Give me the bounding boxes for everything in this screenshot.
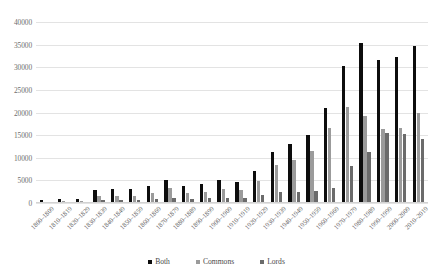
bar-group <box>37 22 55 203</box>
y-axis-tick-label: 10000 <box>14 153 32 162</box>
bar-commons <box>292 160 295 203</box>
bar-group <box>250 22 268 203</box>
bar-both <box>111 189 114 203</box>
bar-both <box>147 186 150 203</box>
bar-both <box>288 144 291 203</box>
bar-group <box>143 22 161 203</box>
bar-both <box>324 108 327 203</box>
bar-group <box>72 22 90 203</box>
bar-lords <box>332 188 335 203</box>
bar-both <box>200 184 203 203</box>
bar-both <box>395 57 398 203</box>
bar-group <box>214 22 232 203</box>
bar-group <box>285 22 303 203</box>
bar-lords <box>385 133 388 203</box>
bar-both <box>359 43 362 203</box>
bar-commons <box>346 107 349 203</box>
bar-both <box>164 180 167 203</box>
bar-group <box>179 22 197 203</box>
bar-commons <box>381 129 384 203</box>
chart-legend: BothCommonsLords <box>0 257 433 266</box>
bar-commons <box>363 116 366 203</box>
axis-baseline <box>36 202 428 203</box>
bar-group <box>232 22 250 203</box>
legend-swatch-icon <box>260 260 264 264</box>
y-axis-tick-label: 25000 <box>14 85 32 94</box>
bar-lords <box>403 134 406 203</box>
bar-group <box>392 22 410 203</box>
bar-group <box>126 22 144 203</box>
bar-commons <box>417 113 420 204</box>
bar-both <box>217 180 220 203</box>
bar-both <box>129 189 132 203</box>
legend-swatch-icon <box>148 260 152 264</box>
bar-both <box>271 152 274 203</box>
bar-group <box>161 22 179 203</box>
bar-commons <box>399 128 402 203</box>
bar-group <box>90 22 108 203</box>
bar-group <box>374 22 392 203</box>
bar-both <box>377 60 380 203</box>
bar-commons <box>275 165 278 203</box>
legend-item-commons[interactable]: Commons <box>196 257 234 266</box>
bar-both <box>253 171 256 203</box>
gridline <box>36 203 428 204</box>
bar-groups <box>36 22 428 203</box>
bar-commons <box>310 151 313 203</box>
bar-both <box>413 46 416 203</box>
bar-group <box>321 22 339 203</box>
legend-label: Commons <box>203 257 234 266</box>
bar-both <box>306 135 309 203</box>
bar-commons <box>328 128 331 203</box>
x-axis-labels: 1800–18091810–18191820–18291830–18391840… <box>36 205 428 251</box>
bar-chart: 0500010000150002000025000300003500040000… <box>0 0 433 275</box>
bar-group <box>409 22 427 203</box>
bar-lords <box>367 152 370 203</box>
bar-commons <box>257 181 260 203</box>
bar-both <box>342 66 345 203</box>
bar-lords <box>421 139 424 203</box>
bar-group <box>356 22 374 203</box>
legend-label: Lords <box>267 257 285 266</box>
legend-item-lords[interactable]: Lords <box>260 257 285 266</box>
y-axis-tick-label: 0 <box>28 199 32 208</box>
bar-group <box>338 22 356 203</box>
y-axis-tick-label: 20000 <box>14 108 32 117</box>
bar-group <box>268 22 286 203</box>
bar-group <box>108 22 126 203</box>
bar-commons <box>222 189 225 203</box>
bar-both <box>235 182 238 203</box>
bar-both <box>182 186 185 203</box>
bar-commons <box>168 188 171 203</box>
plot-area <box>36 22 428 203</box>
bar-lords <box>350 166 353 203</box>
y-axis-tick-label: 15000 <box>14 131 32 140</box>
y-axis-tick-label: 5000 <box>18 176 32 185</box>
legend-label: Both <box>155 257 170 266</box>
legend-item-both[interactable]: Both <box>148 257 170 266</box>
bar-group <box>303 22 321 203</box>
legend-swatch-icon <box>196 260 200 264</box>
y-axis-tick-label: 30000 <box>14 63 32 72</box>
y-axis-tick-label: 35000 <box>14 40 32 49</box>
bar-group <box>55 22 73 203</box>
y-axis-tick-label: 40000 <box>14 18 32 27</box>
bar-group <box>197 22 215 203</box>
